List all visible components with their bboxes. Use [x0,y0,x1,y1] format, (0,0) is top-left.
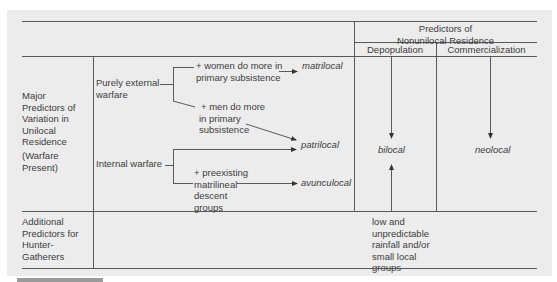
label-line: Present) [22,162,59,174]
label-line: Residence [22,136,75,148]
label-line: Variation in [22,113,75,125]
label-line: (Warfare [22,150,59,162]
condition-matrilineal-descent: + preexisting matrilineal descent groups [194,167,248,213]
label-line: groups [372,262,430,274]
row-label-major-predictors: Major Predictors of Variation in Uniloca… [22,90,75,148]
group-title: Predictors of Nonunilocal Residence [354,23,537,46]
label-line: unpredictable [372,228,430,240]
label-line: in primary [199,113,265,125]
group-title-line: Predictors of [354,23,537,35]
row-sublabel-warfare-present: (Warfare Present) [22,150,59,173]
label-line: Predictors for [22,228,79,240]
predictor-internal-warfare: Internal warfare [96,158,162,170]
label-line: Predictors of [22,102,75,114]
label-line: subsistence [199,124,265,136]
label-line: Purely external [96,77,159,89]
outcome-matrilocal: matrilocal [302,60,343,72]
label-line: rainfall and/or [372,239,430,251]
condition-men-subsistence: + men do more in primary subsistence [199,101,265,136]
predictor-external-warfare: Purely external warfare [96,77,159,100]
label-line: Additional [22,216,79,228]
label-line: primary subsistence [196,72,282,84]
label-line: small local [372,251,430,263]
outcome-avunculocal: avunculocal [301,177,351,189]
label-line: Unilocal [22,125,75,137]
caption-bar [17,278,103,282]
label-line: low and [372,216,430,228]
label-line: + men do more [199,101,265,113]
outcome-patrilocal: patrilocal [301,139,339,151]
label-line: Gatherers [22,251,79,263]
label-line: + women do more in [196,60,282,72]
condition-women-subsistence: + women do more in primary subsistence [196,60,282,83]
label-line: Hunter- [22,239,79,251]
condition-hunter-gatherer: low and unpredictable rainfall and/or sm… [372,216,430,274]
column-header-depopulation: Depopulation [354,44,436,56]
label-line: Major [22,90,75,102]
label-line: + preexisting [194,167,248,179]
label-line: descent [194,190,248,202]
outcome-bilocal: bilocal [378,144,405,156]
column-header-commercialization: Commercialization [436,44,537,56]
label-line: warfare [96,89,159,101]
row-label-hunter-gatherers: Additional Predictors for Hunter- Gather… [22,216,79,262]
label-line: groups [194,202,248,214]
outcome-neolocal: neolocal [475,144,510,156]
label-line: matrilineal [194,179,248,191]
